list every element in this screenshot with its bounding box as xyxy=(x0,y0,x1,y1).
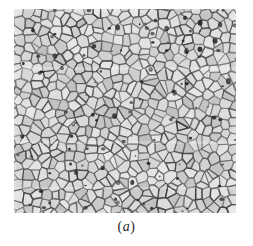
micrograph-image xyxy=(14,9,236,213)
caption-close-paren: ) xyxy=(130,219,135,234)
figure-caption: (a) xyxy=(0,219,253,235)
micrograph-canvas xyxy=(14,9,236,213)
figure-container: (a) xyxy=(0,0,253,246)
film-grain-overlay xyxy=(14,9,236,213)
